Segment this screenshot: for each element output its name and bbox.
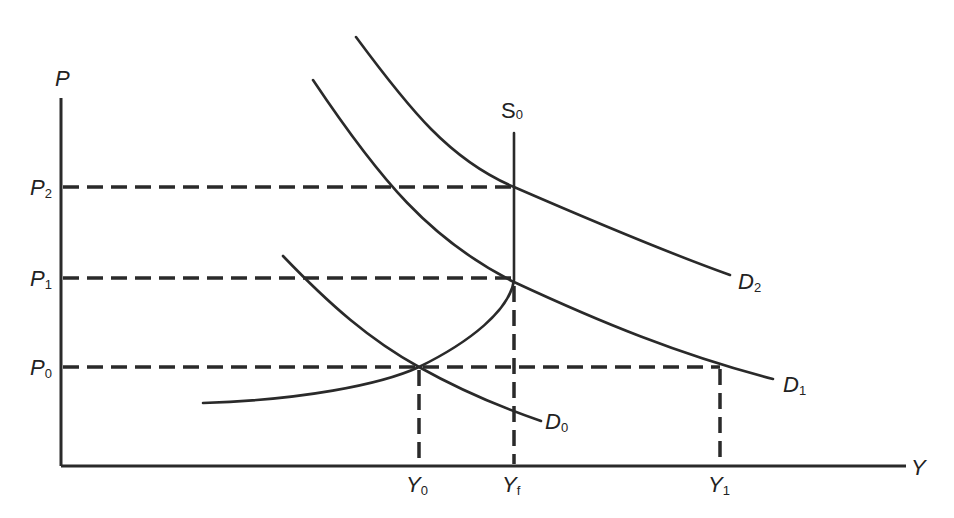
demand-label-d2: D2 (738, 269, 761, 295)
supply-curve-s0 (203, 133, 514, 403)
output-label-yf: Yf (502, 472, 521, 498)
output-label-y1: Y1 (708, 472, 730, 498)
output-axis-label: Y (911, 455, 927, 480)
price-label-p1: P1 (30, 266, 52, 292)
output-label-y0: Y0 (406, 472, 428, 498)
demand-curve-d1 (313, 80, 773, 379)
price-label-p2: P2 (30, 175, 52, 201)
price-axis-label: P (55, 66, 70, 91)
supply-label-s0: S0 (501, 98, 523, 123)
demand-label-d1: D1 (783, 372, 806, 398)
demand-curve-d0 (283, 256, 541, 421)
demand-curve-d2 (356, 37, 730, 275)
diagram-canvas: P Y P2 P1 P0 Y0 Yf Y1 S0 D0 D1 D2 (0, 0, 954, 518)
demand-label-d0: D0 (545, 409, 568, 435)
price-label-p0: P0 (30, 355, 52, 381)
